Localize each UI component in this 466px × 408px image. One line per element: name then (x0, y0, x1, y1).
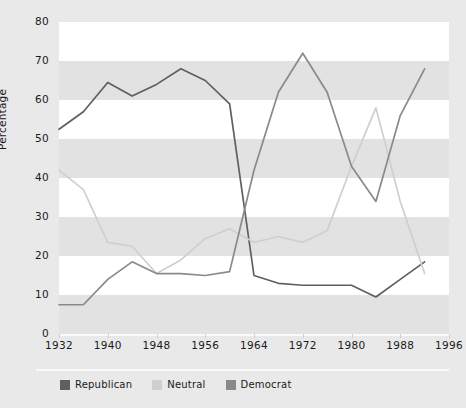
x-axis-tick-mark (157, 334, 158, 338)
legend-divider (36, 369, 449, 371)
legend-swatch-republican (60, 380, 70, 390)
y-axis-tick-label: 30 (0, 210, 49, 222)
x-axis-tick-mark (205, 334, 206, 338)
series-line-republican (59, 69, 425, 297)
x-axis-tick-label: 1956 (180, 339, 230, 351)
x-axis-tick-label: 1996 (424, 339, 466, 351)
legend-label: Neutral (167, 379, 205, 390)
y-axis-tick-label: 70 (0, 54, 49, 66)
chart-legend: RepublicanNeutralDemocrat (60, 379, 292, 390)
x-axis-tick-label: 1932 (34, 339, 84, 351)
x-axis-tick-mark (449, 334, 450, 338)
y-axis-tick-label: 10 (0, 288, 49, 300)
y-axis-tick-label: 40 (0, 171, 49, 183)
legend-item-neutral[interactable]: Neutral (152, 379, 205, 390)
legend-item-democrat[interactable]: Democrat (226, 379, 292, 390)
series-lines (59, 22, 449, 334)
y-axis-tick-label: 50 (0, 132, 49, 144)
x-axis-tick-mark (352, 334, 353, 338)
plot-area (59, 22, 449, 334)
x-axis-tick-mark (400, 334, 401, 338)
x-axis-tick-label: 1964 (229, 339, 279, 351)
x-axis-tick-label: 1948 (132, 339, 182, 351)
x-axis-tick-mark (303, 334, 304, 338)
x-axis-tick-label: 1972 (278, 339, 328, 351)
x-axis-tick-label: 1988 (375, 339, 425, 351)
chart-figure: Percentage 01020304050607080 19321940194… (0, 0, 466, 408)
legend-swatch-democrat (226, 380, 236, 390)
y-axis-tick-label: 20 (0, 249, 49, 261)
x-axis-tick-mark (254, 334, 255, 338)
legend-label: Republican (75, 379, 132, 390)
y-axis-tick-label: 0 (0, 327, 49, 339)
legend-swatch-neutral (152, 380, 162, 390)
y-axis-tick-label: 80 (0, 15, 49, 27)
x-axis-tick-mark (59, 334, 60, 338)
legend-label: Democrat (241, 379, 292, 390)
legend-item-republican[interactable]: Republican (60, 379, 132, 390)
x-axis-tick-mark (108, 334, 109, 338)
y-axis-tick-label: 60 (0, 93, 49, 105)
x-axis-tick-label: 1980 (327, 339, 377, 351)
series-line-democrat (59, 53, 425, 305)
x-axis-tick-label: 1940 (83, 339, 133, 351)
